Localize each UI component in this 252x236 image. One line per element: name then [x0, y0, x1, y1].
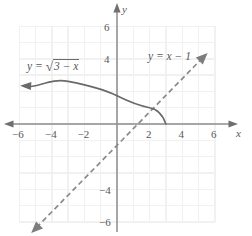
xtick-label-minus-6: −6: [12, 128, 24, 140]
y-axis-label: y: [122, 3, 127, 15]
curve-arrow-left: [20, 82, 31, 90]
x-axis-label: x: [236, 127, 241, 139]
coordinate-plane-svg: [0, 0, 252, 236]
ytick-label-6: 6: [104, 21, 110, 33]
xtick-label-minus-4: −4: [45, 128, 57, 140]
ytick-label-minus-4: −4: [99, 184, 111, 196]
curve-equation-prefix: y =: [27, 60, 43, 72]
radical-sign-icon: √: [46, 59, 53, 75]
line-equation-label: y = x − 1: [148, 50, 191, 62]
x-axis-arrow-left: [4, 120, 14, 127]
graph-figure: −6 −4 −2 2 4 6 6 4 −4 −6 y x y = √3 − x …: [0, 0, 252, 236]
curve-y-equals-sqrt-3-minus-x: [20, 81, 166, 124]
radicand: 3 − x: [53, 59, 79, 73]
dashed-line-arrow-lower-left: [31, 221, 43, 233]
radical-expression: √3 − x: [43, 58, 80, 74]
xtick-label-minus-2: −2: [78, 128, 90, 140]
ytick-label-minus-6: −6: [99, 216, 111, 228]
xtick-label-2: 2: [146, 128, 152, 140]
x-axis: [4, 120, 238, 127]
curve-equation-label: y = √3 − x: [27, 58, 79, 74]
ytick-label-4: 4: [104, 53, 110, 65]
y-axis: [113, 3, 120, 232]
xtick-label-4: 4: [179, 128, 185, 140]
xtick-label-6: 6: [211, 128, 217, 140]
y-axis-arrow-up: [113, 3, 120, 13]
